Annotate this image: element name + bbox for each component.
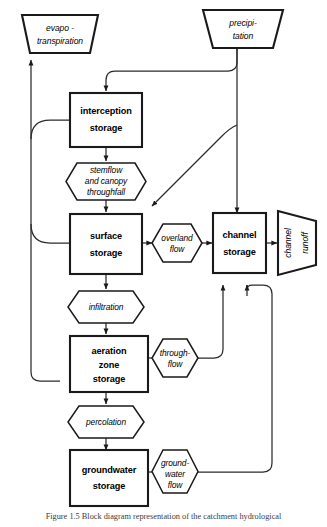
precipitation-node[interactable]: precipi- tation [203,10,283,48]
surface-storage-shape [70,214,142,274]
overland-flow-label-line2: flow [170,244,186,254]
groundwater-flow-label-line2: water [165,469,186,479]
precipitation-label-line2: tation [233,31,254,41]
connector-surface-to-evapo [31,224,70,243]
through-flow-label-line1: through- [160,348,191,358]
channel-storage-label-line1: channel [222,230,256,240]
channel-storage-node[interactable]: channel storage [213,213,266,273]
aeration-zone-label-line1: aeration [92,346,127,356]
percolation-node[interactable]: percolation [68,406,144,438]
infiltration-label: infiltration [89,302,124,312]
connector-evapotranspiration-trunk [31,372,60,381]
connector-throughflow-to-channel [198,285,223,358]
percolation-label: percolation [85,417,126,427]
overland-flow-node[interactable]: overland flow [152,224,202,262]
interception-storage-node[interactable]: interception storage [70,93,142,147]
aeration-zone-label-line3: storage [93,374,126,384]
connector-precipitation-to-surface [152,125,237,206]
channel-runoff-label-line1: channel [283,227,293,258]
figure-caption: Figure 1.5 Block diagram representation … [0,512,327,521]
channel-storage-label-line2: storage [223,247,256,257]
stemflow-label-line2: and canopy [85,176,128,186]
interception-storage-label-line1: interception [80,106,132,116]
evapotranspiration-label-line1: evapo - [46,23,74,33]
groundwater-storage-label-line2: storage [93,481,126,491]
evapotranspiration-node[interactable]: evapo - transpiration [22,15,98,53]
stemflow-label-line3: throughfall [87,187,126,197]
groundwater-flow-label-line3: flow [168,480,184,490]
connector-precipitation-to-interception [106,48,237,91]
infiltration-node[interactable]: infiltration [68,291,144,323]
groundwater-storage-shape [70,450,148,506]
groundwater-flow-node[interactable]: ground- water flow [152,450,198,493]
channel-storage-shape [213,213,266,273]
surface-storage-label-line1: surface [90,231,122,241]
channel-runoff-node[interactable]: channel runoff [278,211,316,275]
stemflow-canopy-throughfall-node[interactable]: stemflow and canopy throughfall [66,163,146,200]
groundwater-flow-label-line1: ground- [161,458,189,468]
evapotranspiration-label-line2: transpiration [37,36,83,46]
diagram-canvas: evapo - transpiration precipi- tation in… [0,0,327,527]
connector-interception-to-evapo [31,120,70,139]
evapotranspiration-shape [22,15,98,53]
groundwater-storage-node[interactable]: groundwater storage [70,450,148,506]
hydrological-system-diagram: evapo - transpiration precipi- tation in… [0,0,327,527]
stemflow-label-line1: stemflow [90,165,123,175]
aeration-zone-storage-node[interactable]: aeration zone storage [70,336,148,392]
through-flow-label-line2: flow [168,359,184,369]
surface-storage-label-line2: storage [90,248,123,258]
precipitation-label-line1: precipi- [228,18,257,28]
through-flow-node[interactable]: through- flow [152,339,198,377]
overland-flow-shape [152,224,202,262]
interception-storage-label-line2: storage [90,123,123,133]
aeration-zone-label-line2: zone [99,360,120,370]
channel-runoff-label-line2: runoff [300,231,310,254]
interception-storage-shape [70,93,142,147]
surface-storage-node[interactable]: surface storage [70,214,142,274]
overland-flow-label-line1: overland [161,233,193,243]
groundwater-storage-label-line1: groundwater [82,465,137,475]
connector-gwflow-to-channel [198,285,272,472]
through-flow-shape [152,339,198,377]
precipitation-shape [203,10,283,48]
